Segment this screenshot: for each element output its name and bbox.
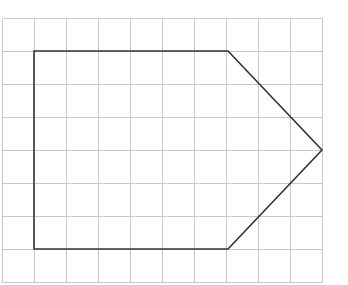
figure-root: g	[0, 0, 348, 285]
grid-figure-canvas	[0, 0, 348, 285]
canvas-background	[0, 0, 348, 285]
